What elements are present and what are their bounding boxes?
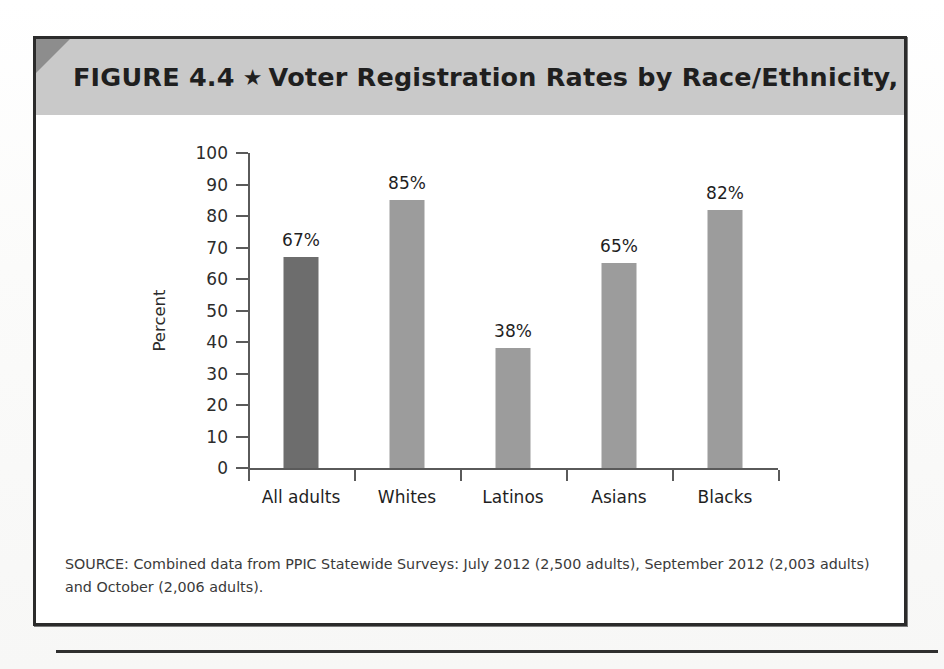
corner-fold-decoration [36,39,70,73]
x-axis-category-labels: All adultsWhitesLatinosAsiansBlacks [248,115,778,515]
y-axis-tick [236,310,248,312]
y-axis-tick-label: 10 [182,427,228,447]
x-axis-tick [778,470,780,481]
y-axis-tick-label: 70 [182,238,228,258]
figure-header-band: FIGURE 4.4★Voter Registration Rates by R… [36,39,904,115]
y-axis-tick-label: 100 [182,143,228,163]
y-axis-tick-label: 60 [182,269,228,289]
y-axis-tick-label: 80 [182,206,228,226]
y-axis-tick [236,341,248,343]
y-axis-tick [236,152,248,154]
figure-title: FIGURE 4.4★Voter Registration Rates by R… [73,62,904,92]
y-axis-tick [236,184,248,186]
y-axis-tick-label: 20 [182,395,228,415]
y-axis-title: Percent [150,289,169,351]
y-axis-tick [236,467,248,469]
y-axis-tick [236,247,248,249]
y-axis-tick [236,436,248,438]
figure-number: FIGURE 4.4 [73,62,235,92]
y-axis-tick-label: 30 [182,364,228,384]
figure-title-text: Voter Registration Rates by Race/Ethnici… [269,62,904,92]
y-axis-tick [236,278,248,280]
y-axis-tick-label: 50 [182,301,228,321]
y-axis-tick-label: 90 [182,175,228,195]
y-axis-tick [236,373,248,375]
figure-box: FIGURE 4.4★Voter Registration Rates by R… [33,36,907,626]
x-axis-category-label: Blacks [650,487,800,507]
y-axis-tick [236,404,248,406]
y-axis-tick-labels: 0102030405060708090100 [176,115,228,623]
y-axis-tick [236,215,248,217]
source-note: SOURCE: Combined data from PPIC Statewid… [65,553,875,599]
footer-rule [56,650,938,653]
chart-plot-area: Percent 0102030405060708090100 67%85%38%… [36,115,904,623]
star-icon: ★ [237,65,269,90]
y-axis-tick-label: 40 [182,332,228,352]
y-axis-tick-label: 0 [182,458,228,478]
